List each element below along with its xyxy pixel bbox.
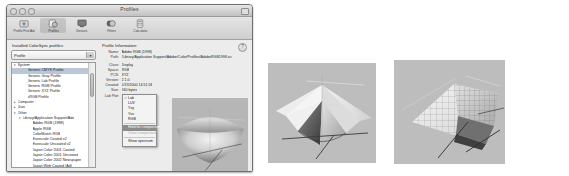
colorspace-context-menu[interactable]: ✓LabLUVYxyYuvRGBHold for comparisonClear… <box>122 94 157 147</box>
lab-plot-in-window[interactable] <box>172 98 248 172</box>
toolbar-item-profiles[interactable]: Profiles <box>40 18 66 33</box>
profiles-icon <box>47 18 60 29</box>
main-toolbar: Profile First Aid Profiles Devices <box>7 17 252 40</box>
first-aid-icon <box>18 18 31 29</box>
info-detail-key: Size: <box>102 88 122 93</box>
menu-item[interactable]: Show spectrum <box>123 139 156 144</box>
menu-item[interactable]: RGB <box>123 117 156 122</box>
filters-icon <box>105 18 118 29</box>
toolbar-item-devices[interactable]: Devices <box>69 18 95 33</box>
calculator-icon <box>134 18 147 29</box>
menu-item-label: RGB <box>128 117 136 122</box>
menu-item-label: Clear comparison <box>128 131 156 136</box>
profile-list-item-label: Japan Web Coated (Ad) <box>33 164 73 168</box>
profiles-sidebar: Installed ColorSync profiles: Profile ▾ … <box>7 40 99 172</box>
menu-separator <box>124 123 155 124</box>
toolbar-toggle-button[interactable] <box>241 8 249 15</box>
profile-filter-dropdown[interactable]: Profile ▾ <box>11 50 96 60</box>
profiles-list[interactable]: ▾SystemGeneric CMYK ProfileGeneric Gray … <box>11 62 96 168</box>
gamut-plot-wireframe[interactable] <box>394 60 505 164</box>
profiles-list-rows: ▾SystemGeneric CMYK ProfileGeneric Gray … <box>12 63 89 168</box>
toolbar-item-label: Profile First Aid <box>13 29 34 33</box>
window-body: Installed ColorSync profiles: Profile ▾ … <box>7 40 252 172</box>
sidebar-heading: Installed ColorSync profiles: <box>12 43 96 48</box>
toolbar-item-label: Calculator <box>133 29 147 33</box>
toolbar-item-label: Devices <box>76 29 87 33</box>
chevron-down-icon: ▾ <box>86 52 94 58</box>
help-button[interactable]: ? <box>238 43 247 52</box>
info-field-key: Path: <box>102 55 122 60</box>
window-titlebar[interactable]: Profiles <box>7 5 252 17</box>
toolbar-item-filters[interactable]: Filters <box>98 18 124 33</box>
gamut-plot-diamond[interactable] <box>268 63 376 163</box>
scrollbar-thumb[interactable] <box>90 73 94 97</box>
menu-item: Clear comparison <box>123 131 156 136</box>
devices-icon <box>76 18 89 29</box>
toolbar-item-calculator[interactable]: Calculator <box>127 18 153 33</box>
profile-info-pane: Profile Information: Name: Adobe RGB (19… <box>99 40 252 172</box>
window-title: Profiles <box>7 6 252 12</box>
menu-separator <box>124 137 155 138</box>
toolbar-item-label: Filters <box>107 29 116 33</box>
info-heading: Profile Information: <box>102 43 248 48</box>
info-detail-value: 560 bytes <box>122 88 138 93</box>
menu-item-label: Show spectrum <box>128 139 153 144</box>
toolbar-item-label: Profiles <box>48 29 58 33</box>
info-detail-size: Size: 560 bytes <box>102 88 248 93</box>
colorsync-utility-window: Profiles Profile First Aid Profiles <box>6 4 253 172</box>
lab-plot-label: Lab Plot: <box>102 94 122 99</box>
profiles-list-scrollbar[interactable] <box>88 63 95 167</box>
profile-list-item[interactable]: Japan Web Coated (Ad) <box>12 164 89 168</box>
toolbar-item-profile-first-aid[interactable]: Profile First Aid <box>11 18 37 33</box>
profile-filter-value: Profile <box>14 53 25 58</box>
info-field-value: /Library/Application Support/Adobe/Color… <box>122 55 233 60</box>
info-field-path: Path: /Library/Application Support/Adobe… <box>102 55 248 60</box>
